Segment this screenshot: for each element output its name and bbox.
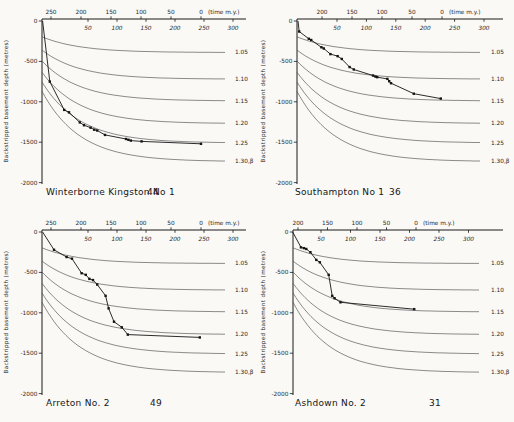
data-point <box>298 30 300 32</box>
data-point <box>320 46 322 48</box>
time-axis-title: (time m.y.) <box>208 220 239 227</box>
beta-curve <box>42 37 225 53</box>
beta-curve <box>293 293 479 354</box>
beta-curve <box>293 272 479 312</box>
data-point <box>300 246 302 248</box>
data-point <box>85 274 87 276</box>
time-tick-label: 150 <box>105 9 116 15</box>
beta-curve-label: 1.25 <box>491 140 504 146</box>
elapsed-tick-label: 150 <box>140 25 151 31</box>
beta-curves: 1.051.101.151.201.251.30,β <box>297 37 510 165</box>
beta-curve-label: 1.05 <box>235 49 248 55</box>
beta-curve <box>42 293 225 354</box>
beta-curve-label: 1.10 <box>235 76 248 82</box>
data-point <box>348 66 350 68</box>
elapsed-tick-label: 150 <box>390 25 401 31</box>
data-point <box>130 139 132 141</box>
data-point <box>310 39 312 41</box>
depth-tick-label: -2000 <box>276 180 293 186</box>
time-tick-label: 150 <box>322 220 333 226</box>
beta-curves: 1.051.101.151.201.251.30,β <box>293 248 510 376</box>
subsidence-figure: 250200150100500(time m.y.)50100150200250… <box>0 0 514 422</box>
data-point <box>440 97 442 99</box>
data-point <box>315 259 317 261</box>
beta-curve <box>293 261 479 290</box>
depth-tick-label: -1500 <box>276 139 293 145</box>
beta-curve-label: 1.30,β <box>491 369 510 376</box>
depth-axis-title: Backstripped basement depth (metres) <box>260 40 267 163</box>
time-tick-label: 0 <box>199 220 203 226</box>
series-line <box>293 232 415 309</box>
depth-tick-label: 0 <box>289 18 293 24</box>
elapsed-tick-label: 300 <box>463 236 474 242</box>
depth-tick-label: -1000 <box>21 99 38 105</box>
time-axis-title: (time m.y.) <box>449 9 480 16</box>
data-point <box>327 274 329 276</box>
time-tick-label: 100 <box>351 220 362 226</box>
beta-curve-label: 1.05 <box>235 260 248 266</box>
beta-curve-label: 1.10 <box>491 76 504 82</box>
axes: 250200150100500(time m.y.)50100150200250… <box>3 220 246 397</box>
beta-curve-label: 1.20 <box>491 331 504 337</box>
beta-curve-label: 1.10 <box>235 287 248 293</box>
data-point <box>121 326 123 328</box>
time-tick-label: 200 <box>75 220 86 226</box>
data-point <box>63 109 65 111</box>
beta-curve-label: 1.15 <box>235 309 248 315</box>
elapsed-tick-label: 200 <box>404 236 415 242</box>
sample-count-label: 31 <box>429 398 441 408</box>
data-point <box>113 320 115 322</box>
depth-tick-label: -2000 <box>21 391 38 397</box>
data-point <box>329 53 331 55</box>
time-tick-label: 0 <box>199 9 203 15</box>
elapsed-tick-label: 50 <box>317 236 325 242</box>
time-axis-title: (time m.y.) <box>208 9 239 16</box>
beta-curve <box>42 91 225 161</box>
data-point <box>319 261 321 263</box>
data-point <box>125 138 127 140</box>
beta-curve-label: 1.25 <box>491 351 504 357</box>
panel-southampton: 200150100500(time m.y.)50100150200250300… <box>257 0 514 211</box>
beta-curve-label: 1.05 <box>491 49 504 55</box>
depth-tick-label: 0 <box>34 18 38 24</box>
depth-tick-label: -500 <box>275 269 288 275</box>
subsidence-plot-arreton: 250200150100500(time m.y.)50100150200250… <box>0 211 257 422</box>
well-name-label: Arreton No. 2 <box>46 398 110 408</box>
data-point <box>413 93 415 95</box>
elapsed-tick-label: 300 <box>227 25 238 31</box>
elapsed-tick-label: 50 <box>333 25 341 31</box>
time-tick-label: 200 <box>316 9 327 15</box>
beta-curve-label: 1.20 <box>235 331 248 337</box>
panel-ashdown: 200150100500(time m.y.)50100150200250300… <box>257 211 514 422</box>
beta-curve <box>293 248 479 264</box>
data-point <box>341 58 343 60</box>
depth-tick-label: -500 <box>279 58 292 64</box>
depth-tick-label: -1500 <box>21 350 38 356</box>
elapsed-tick-label: 50 <box>84 25 92 31</box>
sample-count-label: 44 <box>147 187 159 197</box>
data-point <box>308 38 310 40</box>
data-point <box>104 134 106 136</box>
elapsed-tick-label: 150 <box>374 236 385 242</box>
beta-curve <box>297 91 480 161</box>
well-subsidence-series <box>293 232 416 310</box>
data-point <box>83 124 85 126</box>
depth-tick-label: -500 <box>24 58 37 64</box>
elapsed-tick-label: 100 <box>361 25 372 31</box>
data-point <box>71 257 73 259</box>
elapsed-tick-label: 250 <box>433 236 444 242</box>
depth-tick-label: -1000 <box>276 99 293 105</box>
time-tick-label: 100 <box>376 9 387 15</box>
data-point <box>333 297 335 299</box>
beta-curve <box>42 248 225 264</box>
beta-curve-label: 1.15 <box>491 98 504 104</box>
series-line <box>43 21 201 144</box>
time-axis-title: (time m.y.) <box>423 220 454 227</box>
well-name-label: Southampton No 1 <box>295 187 384 197</box>
beta-curves: 1.051.101.151.201.251.30,β <box>42 37 254 165</box>
time-tick-label: 150 <box>346 9 357 15</box>
elapsed-tick-label: 100 <box>111 236 122 242</box>
well-subsidence-series <box>43 21 203 145</box>
data-point <box>49 80 51 82</box>
beta-curve-label: 1.25 <box>235 140 248 146</box>
